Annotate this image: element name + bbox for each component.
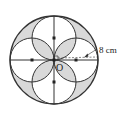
- arrow-head-icon: [84, 54, 89, 58]
- geometry-figure: O 8 cm: [0, 0, 131, 119]
- center-label-o: O: [56, 62, 63, 73]
- radius-label: 8 cm: [99, 45, 117, 55]
